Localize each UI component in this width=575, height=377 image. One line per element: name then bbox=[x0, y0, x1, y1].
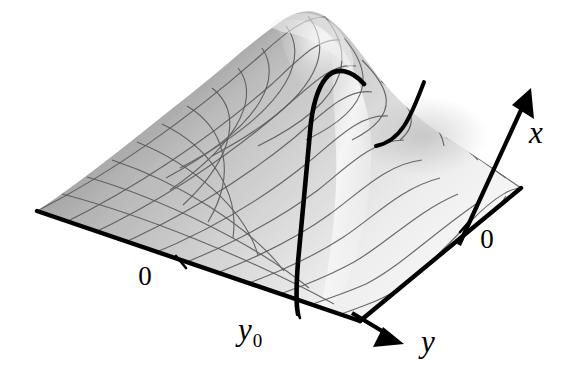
surface-trough bbox=[360, 96, 488, 176]
label-y0-base: y bbox=[235, 312, 252, 347]
label-y0-group: y0 bbox=[235, 312, 262, 351]
figure-root: 0 0 x y y0 bbox=[0, 0, 575, 377]
surface-plot-canvas: 0 0 x y y0 bbox=[0, 0, 575, 377]
axis-label-x: x bbox=[528, 115, 543, 150]
surface-body bbox=[37, 11, 521, 356]
axis-label-y: y bbox=[418, 324, 435, 359]
tick-label-left-zero: 0 bbox=[138, 261, 152, 291]
tick-label-right-zero: 0 bbox=[480, 224, 494, 254]
label-y0-subscript: 0 bbox=[253, 330, 263, 351]
